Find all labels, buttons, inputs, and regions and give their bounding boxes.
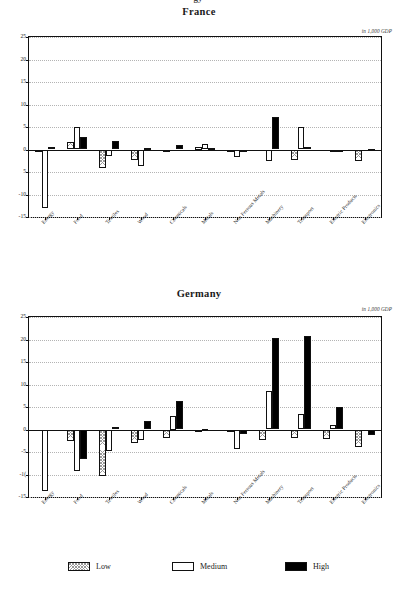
bar-low [163,150,170,152]
bar-medium [298,414,305,429]
gridline [29,385,381,386]
legend-label-medium: Medium [200,562,227,571]
zero-axis-line [29,150,381,151]
gridline [29,60,381,61]
bar-high [112,141,119,149]
legend-item-high: High [285,562,329,571]
bar-high [112,427,119,430]
chart-title-france: France [0,6,398,17]
unit-note-germany: in 1,000 GDP [362,306,392,312]
bar-medium [74,430,81,472]
y-tick-label: 5 [23,404,26,410]
y-tick-label: 10 [20,102,26,108]
bar-low [291,150,298,161]
bar-medium [106,430,113,451]
y-tick-label: -15 [19,214,26,220]
bar-high [336,150,343,152]
y-tick-label: 5 [23,124,26,130]
bar-high [48,147,55,150]
bar-medium [298,127,305,149]
y-tick-mark [26,172,29,173]
bar-medium [266,150,273,161]
bar-medium [234,150,241,157]
legend-swatch-medium-icon [172,562,194,571]
bar-medium [138,150,145,167]
bar-high [304,147,311,150]
y-tick-mark [26,127,29,128]
y-tick-mark [26,362,29,363]
y-tick-label: 0 [23,147,26,153]
bar-low [35,150,42,153]
bar-low [227,150,234,152]
y-tick-label: 20 [20,337,26,343]
y-tick-label: -1( [19,472,26,478]
bar-low [163,430,170,439]
gridline [29,362,381,363]
bar-high [80,137,87,149]
bar-low [195,430,202,432]
legend-swatch-high-icon [285,562,307,571]
bar-high [144,148,151,150]
bar-high [240,150,247,152]
y-tick-label: -15 [19,494,26,500]
legend-swatch-low-icon [68,562,90,571]
bar-medium [202,429,209,431]
gridline [29,105,381,106]
bar-high [208,148,215,150]
y-tick-label: 20 [20,57,26,63]
legend-item-low: Low [68,562,111,571]
gridline [29,127,381,128]
plot-area-france: 25201510505-10-15 [28,36,382,218]
bar-low [99,150,106,168]
y-tick-mark [26,37,29,38]
bar-high [304,336,311,430]
bar-low [131,150,138,160]
y-tick-mark [26,195,29,196]
legend: Low Medium High [0,558,398,582]
gridline [29,475,381,476]
bar-low [195,147,202,149]
y-tick-mark [26,60,29,61]
gridline [29,37,381,38]
chart-germany: Germany in 1,000 GDP 2520151050-5-1(-15 … [0,288,398,554]
gridline [29,82,381,83]
legend-label-low: Low [96,562,111,571]
y-tick-mark [26,340,29,341]
y-tick-label: 0 [23,427,26,433]
y-tick-label: 5 [23,169,26,175]
y-tick-mark [26,105,29,106]
bar-medium [138,430,145,441]
y-tick-label: 25 [20,34,26,40]
y-tick-label: -5 [21,449,26,455]
bar-high [240,430,247,435]
y-tick-label: 15 [20,79,26,85]
bar-low [227,430,234,432]
bar-high [368,430,375,435]
bar-low [67,142,74,150]
bar-low [323,430,330,439]
y-tick-mark [26,385,29,386]
bar-medium [330,425,337,429]
bar-high [80,430,87,459]
bar-high [272,338,279,430]
y-tick-label: -10 [19,192,26,198]
bar-low [99,430,106,476]
bar-medium [170,416,177,430]
chart-title-germany: Germany [0,288,398,299]
bar-low [291,430,298,439]
y-tick-mark [26,407,29,408]
y-tick-mark [26,317,29,318]
bar-medium [106,150,113,156]
bar-medium [74,127,81,149]
figure-page: gy France in 1,000 GDP 25201510505-10-15… [0,0,398,589]
bar-medium [42,430,49,491]
y-tick-mark [26,452,29,453]
top-cropped-text: gy [185,0,211,4]
bar-medium [42,150,49,209]
bar-high [336,407,343,429]
legend-label-high: High [313,562,329,571]
bar-low [131,430,138,443]
bar-low [355,150,362,162]
bar-high [368,149,375,151]
y-tick-mark [26,497,29,498]
